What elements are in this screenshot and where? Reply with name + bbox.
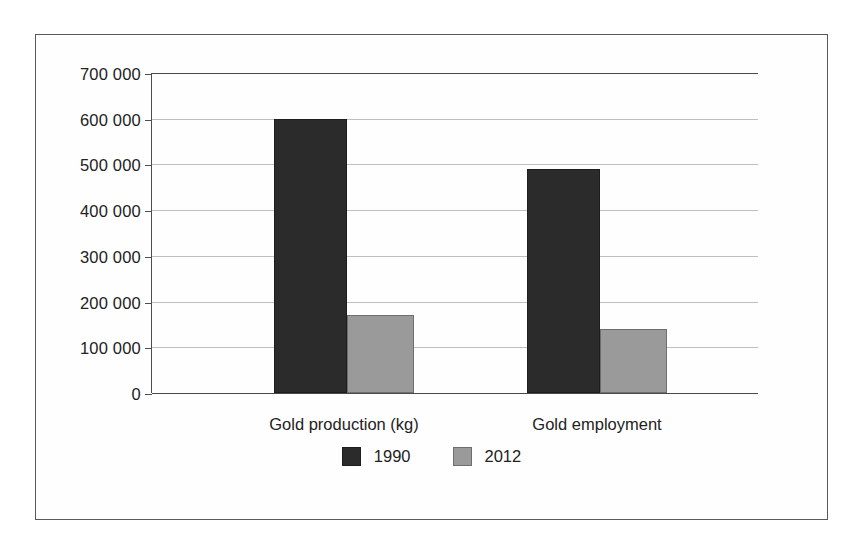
ytick-label-600000: 600 000 [80, 110, 141, 129]
legend-item-1990: 1990 [342, 447, 411, 466]
gridline-600000: 600 000 [152, 119, 758, 120]
chart-legend: 1990 2012 [36, 447, 827, 466]
bar-1990-gold-employment [527, 169, 600, 393]
legend-label-1990: 1990 [374, 447, 411, 466]
ytick-label-400000: 400 000 [80, 202, 141, 221]
ytick-mark-700000 [145, 74, 152, 75]
plot-area: 700 000 600 000 500 000 400 000 300 000 … [151, 73, 758, 393]
gridline-0-baseline: 0 [152, 393, 758, 394]
bar-1990-gold-production [274, 119, 347, 393]
category-label-gold-production: Gold production (kg) [269, 415, 419, 434]
gridline-700000: 700 000 [152, 73, 758, 74]
gridline-500000: 500 000 [152, 164, 758, 165]
gridline-100000: 100 000 [152, 347, 758, 348]
ytick-label-100000: 100 000 [80, 339, 141, 358]
legend-label-2012: 2012 [485, 447, 522, 466]
bar-2012-gold-production [347, 315, 414, 393]
gridline-400000: 400 000 [152, 210, 758, 211]
gridline-300000: 300 000 [152, 256, 758, 257]
ytick-label-700000: 700 000 [80, 65, 141, 84]
ytick-mark-100000 [145, 348, 152, 349]
ytick-mark-600000 [145, 120, 152, 121]
category-label-gold-employment: Gold employment [532, 415, 661, 434]
legend-item-2012: 2012 [453, 447, 522, 466]
ytick-mark-500000 [145, 165, 152, 166]
ytick-label-200000: 200 000 [80, 293, 141, 312]
ytick-mark-200000 [145, 303, 152, 304]
ytick-label-0: 0 [132, 385, 141, 404]
ytick-mark-300000 [145, 257, 152, 258]
legend-swatch-2012-icon [453, 447, 472, 466]
ytick-mark-400000 [145, 211, 152, 212]
ytick-label-300000: 300 000 [80, 247, 141, 266]
ytick-mark-0 [145, 394, 152, 395]
gridline-200000: 200 000 [152, 302, 758, 303]
chart-figure: 700 000 600 000 500 000 400 000 300 000 … [35, 34, 828, 520]
ytick-label-500000: 500 000 [80, 156, 141, 175]
legend-swatch-1990-icon [342, 447, 361, 466]
bar-2012-gold-employment [600, 329, 667, 393]
